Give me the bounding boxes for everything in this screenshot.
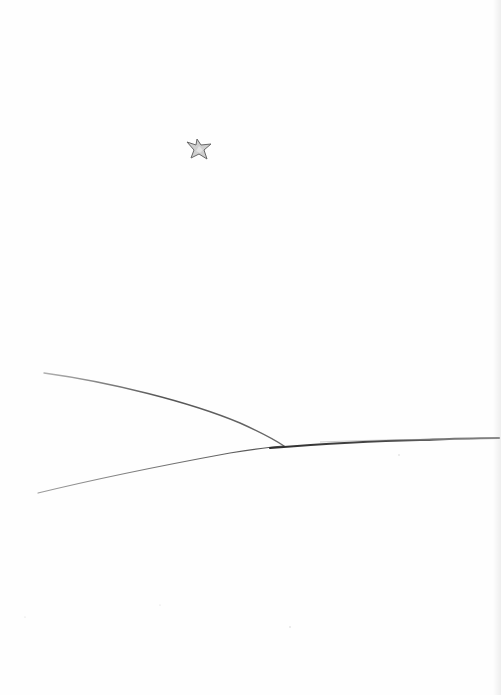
upper-line xyxy=(44,373,284,446)
paper-specks xyxy=(24,454,399,628)
star-icon xyxy=(187,139,211,159)
lower-line xyxy=(38,446,284,493)
pencil-drawing xyxy=(0,0,501,695)
